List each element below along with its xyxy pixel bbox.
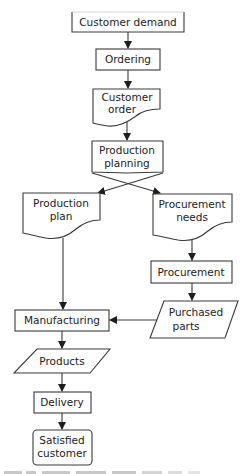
production-planning-label-2: planning xyxy=(104,157,150,169)
procurement-needs-label-2: needs xyxy=(176,211,208,223)
node-delivery: Delivery xyxy=(34,392,91,413)
node-procurement: Procurement xyxy=(151,261,232,283)
manufacturing-label: Manufacturing xyxy=(24,314,100,326)
ordering-label: Ordering xyxy=(105,53,151,65)
node-satisfied-customer: Satisfied customer xyxy=(33,430,92,465)
node-ordering: Ordering xyxy=(96,49,160,70)
procurement-needs-label-1: Procurement xyxy=(158,198,225,210)
customer-order-label-2: order xyxy=(108,103,137,115)
products-label: Products xyxy=(39,355,84,367)
production-plan-label-1: Production xyxy=(33,197,89,209)
production-plan-label-2: plan xyxy=(50,210,73,222)
node-production-plan: Production plan xyxy=(23,193,100,239)
customer-order-label-1: Customer xyxy=(101,91,153,103)
delivery-label: Delivery xyxy=(40,396,84,408)
satisfied-customer-label-2: customer xyxy=(37,447,87,459)
node-customer-demand: Customer demand xyxy=(72,12,184,32)
node-production-planning: Production planning xyxy=(92,141,163,173)
node-manufacturing: Manufacturing xyxy=(15,310,109,331)
customer-demand-label: Customer demand xyxy=(79,16,176,28)
purchased-parts-label-1: Purchased xyxy=(169,306,223,318)
node-products: Products xyxy=(14,349,110,373)
production-planning-label-1: Production xyxy=(99,144,155,156)
satisfied-customer-label-1: Satisfied xyxy=(39,434,84,446)
procurement-label: Procurement xyxy=(157,266,224,278)
node-customer-order: Customer order xyxy=(93,89,160,126)
flowchart: Customer demand Ordering Customer order … xyxy=(0,0,252,474)
edge-planning-plan xyxy=(98,173,163,193)
node-purchased-parts: Purchased parts xyxy=(150,301,238,338)
edge-planning-needs xyxy=(92,173,160,193)
node-procurement-needs: Procurement needs xyxy=(153,194,232,241)
purchased-parts-label-2: parts xyxy=(172,320,199,332)
